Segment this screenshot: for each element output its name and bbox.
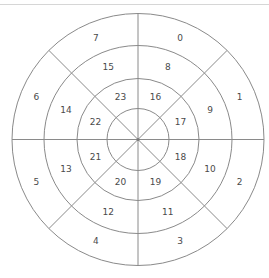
sector-label: 1 (237, 92, 243, 102)
sector-label: 2 (237, 177, 243, 187)
sector-label: 9 (207, 105, 213, 115)
sector-label: 13 (60, 164, 71, 174)
sector-label: 11 (162, 207, 173, 217)
sector-label: 15 (102, 62, 113, 72)
sector-label: 20 (115, 177, 127, 187)
sector-label: 16 (150, 92, 162, 102)
sector-label: 0 (177, 33, 183, 43)
sector-label: 21 (90, 152, 101, 162)
sector-label: 3 (177, 236, 183, 246)
radial-spokes (12, 14, 264, 266)
polar-sector-diagram: 01234567891011121314151617181920212223 (0, 0, 269, 278)
sector-label: 23 (115, 92, 126, 102)
sector-label: 5 (34, 177, 40, 187)
sector-label: 22 (90, 117, 101, 127)
sector-label: 8 (165, 62, 171, 72)
sector-label: 6 (34, 92, 40, 102)
sector-label: 18 (175, 152, 187, 162)
sector-label: 4 (93, 236, 99, 246)
center-point (137, 138, 140, 141)
sector-label: 7 (93, 33, 99, 43)
sector-label: 14 (60, 105, 72, 115)
sector-label: 10 (204, 164, 216, 174)
sector-label: 12 (102, 207, 113, 217)
sector-label: 17 (175, 117, 186, 127)
sector-label: 19 (150, 177, 162, 187)
